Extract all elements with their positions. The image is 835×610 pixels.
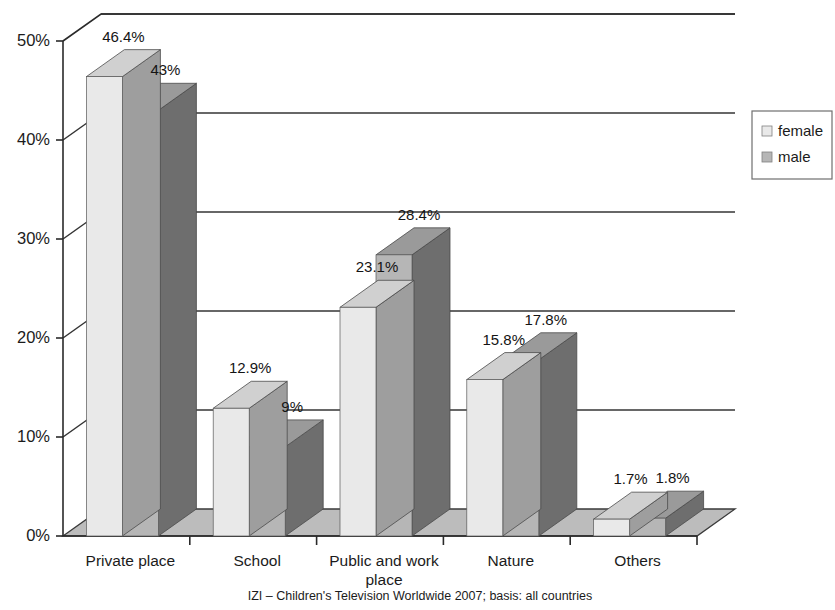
y-axis-tick-label: 0% xyxy=(26,526,50,544)
category-label: Private place xyxy=(86,552,176,569)
legend-swatch-male xyxy=(762,152,772,162)
legend-label-male: male xyxy=(778,148,811,165)
bar-front-face xyxy=(86,77,122,536)
bar-female xyxy=(213,381,287,536)
bar-side-face xyxy=(122,50,160,536)
value-label-male: 17.8% xyxy=(525,311,568,328)
category-label: place xyxy=(365,571,402,588)
value-label-male: 43% xyxy=(150,61,180,78)
chart-container: 0%10%20%30%40%50% 46.4%43%12.9%9%23.1%28… xyxy=(0,0,835,610)
bar-female xyxy=(340,280,414,536)
y-axis-tick-labels: 0%10%20%30%40%50% xyxy=(17,31,50,544)
value-label-female: 1.7% xyxy=(613,470,647,487)
y-axis-tick-label: 50% xyxy=(17,31,50,49)
plot-top-edge xyxy=(63,14,735,41)
category-label: Nature xyxy=(488,552,535,569)
category-label: Public and work xyxy=(329,552,439,569)
bar-side-face xyxy=(539,333,577,536)
bar-female xyxy=(86,50,160,536)
y-axis-tick-label: 20% xyxy=(17,328,50,346)
bar-front-face xyxy=(340,307,376,536)
bar-side-face xyxy=(503,353,541,536)
bar-series-group xyxy=(86,50,703,536)
value-label-male: 28.4% xyxy=(398,206,441,223)
y-axis-tick-label: 10% xyxy=(17,427,50,445)
legend-label-female: female xyxy=(778,122,823,139)
category-label: School xyxy=(233,552,280,569)
bar-side-face xyxy=(412,228,450,536)
bar-front-face xyxy=(213,408,249,536)
value-label-male: 1.8% xyxy=(655,469,689,486)
value-label-female: 46.4% xyxy=(102,28,145,45)
bar-front-face xyxy=(467,380,503,536)
value-label-female: 23.1% xyxy=(356,258,399,275)
bar-side-face xyxy=(376,280,414,536)
bar-female xyxy=(467,353,541,536)
y-axis-tick-label: 40% xyxy=(17,130,50,148)
category-label: Others xyxy=(614,552,661,569)
bar-chart: 0%10%20%30%40%50% 46.4%43%12.9%9%23.1%28… xyxy=(0,0,835,610)
chart-legend: femalemale xyxy=(752,111,832,179)
bar-side-face xyxy=(158,83,196,536)
chart-footnote: IZI – Children's Television Worldwide 20… xyxy=(248,589,592,603)
legend-swatch-female xyxy=(762,126,772,136)
value-label-male: 9% xyxy=(281,398,303,415)
y-axis-tick-label: 30% xyxy=(17,229,50,247)
footnote-text: IZI – Children's Television Worldwide 20… xyxy=(248,589,592,603)
value-label-female: 12.9% xyxy=(229,359,272,376)
value-label-female: 15.8% xyxy=(483,331,526,348)
bar-front-face xyxy=(594,519,630,536)
x-axis-category-labels: Private placeSchoolPublic and workplaceN… xyxy=(86,552,662,588)
